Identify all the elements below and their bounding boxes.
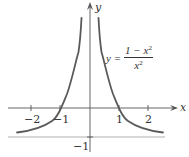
x-tick-label-1: 1 [116,114,123,125]
equation-label: y = 1 − x2 x2 [106,44,153,71]
x-tick-label-minus-1: −1 [53,114,69,125]
equation-denominator: x2 [134,58,142,71]
equation-numerator: 1 − x2 [124,44,153,58]
y-tick-label-minus-1: −1 [73,141,89,152]
x-axis-label: x [180,102,186,113]
y-axis-label: y [95,2,101,13]
equation-lhs: y = [106,52,121,64]
function-graph [0,0,189,157]
equation-fraction: 1 − x2 x2 [124,44,153,71]
curve-right-branch [99,18,164,133]
x-tick-label-2: 2 [145,114,152,125]
x-tick-label-minus-2: −2 [24,114,40,125]
